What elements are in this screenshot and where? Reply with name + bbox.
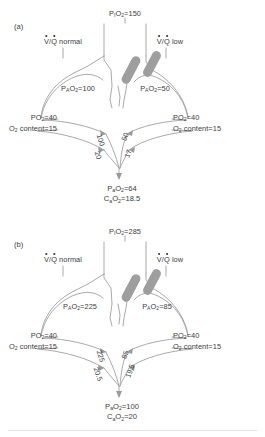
panel-a-arterial-po2: PaO2=64 (104, 184, 140, 194)
obstruction-blob-left (120, 273, 142, 304)
panel-a-left-venous-content-value: 15 (49, 124, 57, 133)
left-airway-upper (74, 274, 104, 291)
v-overdot (159, 253, 161, 255)
content-sub-2: 2 (118, 198, 121, 204)
airway-obstruction-group (120, 50, 163, 86)
alveolar-sub-A: A (145, 87, 148, 93)
left-alveolus-wall (41, 292, 103, 336)
o2-sub: 2 (179, 127, 182, 133)
panel-b: (b) PIO2=285 V/Q normal V/Q low PAO2=225… (0, 218, 265, 436)
obstruction-blob-left (120, 55, 142, 86)
v-dot-wrap: V (157, 38, 162, 47)
airway-obstruction-group (120, 268, 163, 304)
panel-b-result: PaO2=100 CaO2=20 (105, 402, 139, 423)
panel-b-left-alveolar: PAO2=225 (63, 303, 97, 312)
center-airway-inner-left (118, 304, 120, 324)
panel-a-left-venous-content: O2 content=15 (9, 125, 57, 134)
right-alveolus-outer (152, 70, 188, 118)
inspired-subscript-2: 2 (121, 230, 124, 236)
v-dot-wrap: V (44, 38, 49, 47)
panel-a-right-alveolar-value: 50 (162, 84, 170, 93)
panel-a-arterial-content: CaO2=18.5 (104, 194, 140, 204)
arrowhead-arterial (116, 391, 122, 398)
panel-b-right-venous-content-value: 15 (213, 342, 221, 351)
panel-a-arterial-content-value: 18.5 (125, 194, 140, 203)
panel-b-left-venous-po2: PO2=40 (31, 332, 57, 341)
alveolar-sub-2: 2 (77, 305, 80, 311)
left-airway-upper (74, 56, 104, 73)
content-sub-a: a (112, 416, 115, 422)
arterial-sub-a: a (110, 405, 113, 411)
panel-a-left-vq-state: normal (59, 37, 82, 46)
panel-a-left-venous-po2: PO2=40 (31, 114, 57, 123)
panel-b-right-alveolar: PAO2=85 (142, 303, 172, 312)
v-overdot (159, 35, 161, 37)
left-flow-curve-2 (38, 131, 104, 150)
arterial-sub-a: a (112, 187, 115, 193)
v-dot-wrap: V (44, 256, 49, 265)
panel-b-arterial-content: CaO2=20 (105, 412, 139, 422)
left-outflow-1 (106, 352, 119, 386)
right-alveolus-wall (134, 75, 188, 118)
footer-divider (8, 430, 257, 431)
inspired-subscript-2: 2 (121, 12, 124, 18)
left-outflow-1 (106, 134, 119, 168)
panel-a-right-vq-label: V/Q low (157, 38, 183, 47)
panel-a-inspired-label: PIO2=150 (109, 10, 141, 19)
panel-b-right-alveolar-value: 85 (164, 302, 172, 311)
o2-sub: 2 (179, 345, 182, 351)
panel-a-inspired-value: 150 (128, 9, 140, 18)
panel-b-left-vq-label: V/Q normal (44, 256, 82, 265)
panel-b-right-venous-po2-value: 40 (191, 331, 199, 340)
q-dot-wrap: Q (164, 256, 170, 265)
q-overdot (53, 253, 55, 255)
panel-a-left-alveolar-value: 100 (82, 84, 94, 93)
q-overdot (166, 253, 168, 255)
panel-b-right-venous-po2: PO2=40 (173, 332, 199, 341)
alveolar-sub-A: A (66, 87, 69, 93)
panel-b-left-venous-content-value: 15 (49, 342, 57, 351)
alveolar-sub-A: A (68, 305, 71, 311)
panel-a-left-alveolar: PAO2=100 (61, 85, 95, 94)
panel-a-right-alveolar: PAO2=50 (140, 85, 170, 94)
left-alveolus-wall (41, 74, 103, 118)
po2-sub: 2 (41, 334, 44, 340)
panel-b-inspired-label: PIO2=285 (109, 228, 141, 237)
left-airway-inner (104, 56, 112, 108)
po2-sub: 2 (41, 116, 44, 122)
right-alveolus-outer (152, 288, 188, 336)
po2-sub: 2 (184, 116, 187, 122)
q-overdot (53, 35, 55, 37)
panel-b-arterial-content-value: 20 (129, 412, 137, 421)
panel-b-inspired-value: 285 (128, 227, 140, 236)
panel-a-right-venous-po2: PO2=40 (173, 114, 199, 123)
panel-b-right-vq-state: low (172, 255, 183, 264)
left-airway-inner (104, 274, 112, 326)
q-overdot (166, 35, 168, 37)
panel-b-tag: (b) (14, 240, 23, 249)
panel-b-arterial-po2-value: 100 (126, 402, 139, 411)
panel-a: (a) PIO2=150 V/Q normal V/Q low PAO2=100… (0, 0, 265, 218)
arrowhead-arterial (116, 173, 122, 180)
alveolar-sub-2: 2 (156, 305, 159, 311)
v-overdot (46, 35, 48, 37)
content-sub-2: 2 (121, 416, 124, 422)
right-alveolus-wall (134, 293, 188, 336)
o2-sub: 2 (15, 127, 18, 133)
v-overdot (46, 253, 48, 255)
po2-sub: 2 (184, 334, 187, 340)
q-dot-wrap: Q (51, 256, 57, 265)
alveolar-sub-A: A (147, 305, 150, 311)
panel-a-arterial-po2-value: 64 (128, 184, 136, 193)
q-dot-wrap: Q (51, 38, 57, 47)
q-dot-wrap: Q (164, 38, 170, 47)
panel-b-left-vq-state: normal (59, 255, 82, 264)
right-flow-curve-2 (129, 131, 192, 150)
panel-a-tag: (a) (14, 22, 23, 31)
panel-b-left-alveolar-value: 225 (84, 302, 96, 311)
center-airway-inner-left (118, 86, 120, 106)
content-sub-a: a (109, 198, 112, 204)
o2-sub: 2 (15, 345, 18, 351)
panel-a-left-venous-po2-value: 40 (49, 113, 57, 122)
panel-b-right-venous-content: O2 content=15 (173, 343, 221, 352)
